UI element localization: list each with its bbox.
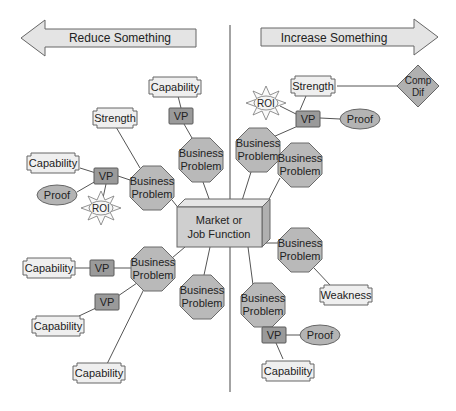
business-problem-node: Business Problem [131,247,176,291]
roi-node: ROI [81,191,121,225]
business-problem-node: Business Problem [278,143,323,187]
svg-text:Business: Business [180,284,225,296]
svg-text:Business: Business [179,147,224,159]
increase-something-label: Increase Something [281,31,388,45]
svg-text:Business: Business [241,292,286,304]
svg-text:Capability: Capability [29,157,78,169]
svg-text:Proof: Proof [44,189,71,201]
vp-node: VP [90,260,114,276]
svg-text:Business: Business [131,256,176,268]
business-problem-node: Business Problem [236,128,281,172]
vp-node: VP [94,168,118,184]
svg-text:Business: Business [278,152,323,164]
svg-text:VP: VP [100,296,115,308]
svg-text:Capability: Capability [34,320,83,332]
svg-text:Problem: Problem [133,269,174,281]
capability-node: Capability [32,316,84,336]
svg-text:Dif: Dif [412,87,424,98]
svg-text:Capability: Capability [264,365,313,377]
center-line1: Market or [196,214,243,226]
svg-text:VP: VP [174,110,189,122]
svg-text:VP: VP [301,113,316,125]
svg-text:VP: VP [267,329,282,341]
svg-text:VP: VP [95,262,110,274]
vp-node: VP [262,327,286,343]
roi-node: ROI [246,86,286,120]
svg-text:Problem: Problem [280,250,321,262]
svg-text:Problem: Problem [238,150,279,162]
svg-text:Problem: Problem [280,165,321,177]
svg-text:Strength: Strength [94,112,136,124]
svg-text:ROI: ROI [92,203,110,214]
value-proposition-diagram: Reduce Something Increase Something [0,0,456,411]
reduce-something-label: Reduce Something [69,31,171,45]
svg-text:Business: Business [236,137,281,149]
business-problem-node: Business Problem [179,138,224,182]
svg-text:Problem: Problem [182,297,223,309]
svg-text:Capability: Capability [151,81,200,93]
business-problem-node: Business Problem [180,275,225,319]
weakness-node: Weakness [320,285,372,305]
vp-node: VP [296,111,320,127]
svg-text:Problem: Problem [132,188,173,200]
svg-text:Problem: Problem [181,160,222,172]
svg-text:Proof: Proof [347,113,374,125]
strength-node: Strength [291,76,335,96]
strength-node: Strength [93,108,137,128]
svg-text:VP: VP [99,170,114,182]
proof-node: Proof [300,325,340,345]
increase-something-arrow: Increase Something [261,19,438,55]
svg-text:Business: Business [278,237,323,249]
vp-node: VP [95,294,119,310]
capability-node: Capability [73,363,125,383]
market-job-function-box: Market or Job Function [177,199,270,247]
svg-text:Comp: Comp [405,75,432,86]
svg-text:Capability: Capability [75,367,124,379]
vp-node: VP [169,108,193,124]
capability-node: Capability [23,258,75,278]
business-problem-node: Business Problem [130,166,175,210]
proof-node: Proof [340,109,380,129]
svg-text:Problem: Problem [243,305,284,317]
capability-node: Capability [149,77,201,97]
svg-text:ROI: ROI [257,98,275,109]
svg-text:Strength: Strength [292,80,334,92]
svg-text:Capability: Capability [25,262,74,274]
svg-text:Proof: Proof [307,329,334,341]
svg-text:Business: Business [130,175,175,187]
proof-node: Proof [37,185,77,205]
reduce-something-arrow: Reduce Something [21,20,196,56]
capability-node: Capability [27,153,79,173]
center-line2: Job Function [188,228,251,240]
capability-node: Capability [262,361,314,381]
business-problem-node: Business Problem [278,228,323,272]
comp-dif-node: Comp Dif [397,65,439,107]
business-problem-node: Business Problem [241,283,286,327]
svg-text:Weakness: Weakness [320,289,372,301]
